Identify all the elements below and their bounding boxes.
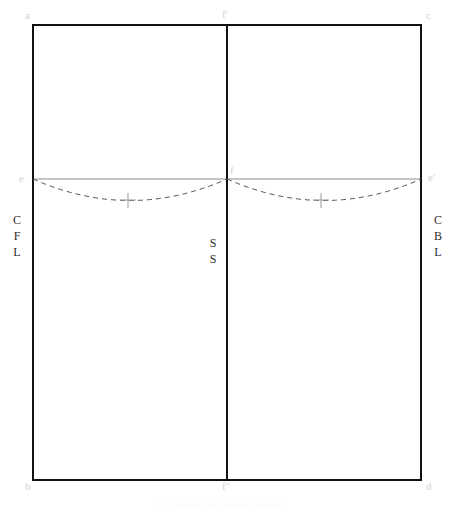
center-label-mid: f <box>230 165 234 176</box>
right-span-sag-curve <box>227 179 421 201</box>
span-sag-diagram <box>0 0 457 514</box>
right-sag-marker <box>313 193 329 208</box>
reference-label-right: e' <box>428 172 435 183</box>
center-annotation: S S <box>206 235 220 267</box>
diagram-canvas: a c b d f' f" f e e' C F L C B L S S Fig… <box>0 0 457 514</box>
center-label-bottom: f" <box>222 481 230 492</box>
left-sag-marker <box>120 193 136 208</box>
reference-label-left: e <box>19 173 24 184</box>
corner-label-top-left: a <box>25 10 30 21</box>
corner-label-top-right: c <box>426 10 431 21</box>
figure-caption: Fig. Conductor sag between supports <box>152 500 285 509</box>
left-span-sag-curve <box>33 179 227 201</box>
center-label-top: f' <box>222 9 228 20</box>
corner-label-bottom-left: b <box>25 481 31 492</box>
right-side-annotation: C B L <box>431 212 445 260</box>
left-side-annotation: C F L <box>10 212 24 260</box>
corner-label-bottom-right: d <box>426 481 432 492</box>
